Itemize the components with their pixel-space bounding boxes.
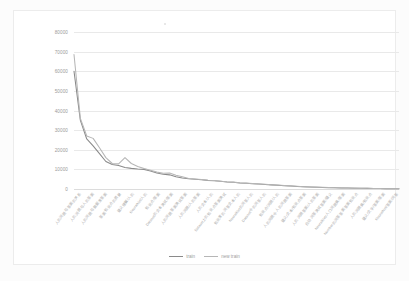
- y-tick-label: 70000: [24, 49, 68, 54]
- legend-item[interactable]: new train: [204, 254, 240, 259]
- legend-label: new train: [221, 254, 240, 259]
- legend-item[interactable]: train: [169, 254, 195, 259]
- series-line: [74, 55, 399, 189]
- chart-panel: 8000070000600005000040000300002000010000…: [13, 10, 396, 265]
- y-tick-label: 0: [24, 187, 68, 192]
- artifact-dot: [164, 23, 166, 25]
- legend-swatch-icon: [169, 256, 183, 257]
- series-line: [74, 71, 399, 189]
- y-tick-label: 60000: [24, 69, 68, 74]
- chart-legend: trainnew train: [14, 254, 395, 259]
- y-tick-label: 80000: [24, 30, 68, 35]
- plot-area: 8000070000600005000040000300002000010000…: [74, 32, 399, 189]
- chart-screenshot: 8000070000600005000040000300002000010000…: [0, 0, 409, 281]
- y-tick-label: 50000: [24, 88, 68, 93]
- y-tick-label: 10000: [24, 167, 68, 172]
- data-series-lines: [74, 32, 399, 189]
- x-axis-tick-labels: 人的问题与答案的关系人的问题与人的答案人的问题与数据库答案答案知识点的质量语义理…: [74, 191, 399, 249]
- y-tick-label: 40000: [24, 108, 68, 113]
- legend-swatch-icon: [204, 256, 218, 257]
- y-tick-label: 30000: [24, 128, 68, 133]
- legend-label: train: [186, 254, 195, 259]
- y-tick-label: 20000: [24, 147, 68, 152]
